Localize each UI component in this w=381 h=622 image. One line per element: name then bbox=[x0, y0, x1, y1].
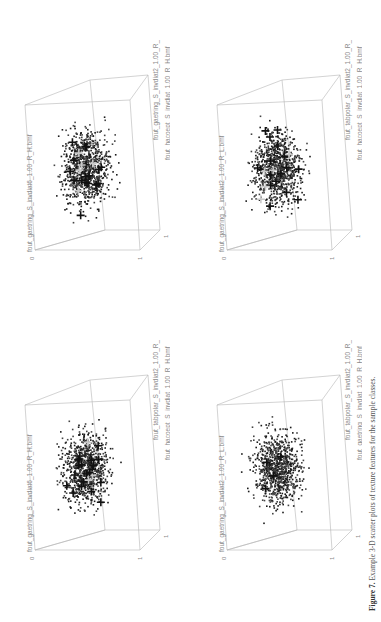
tick-label: 0 bbox=[29, 256, 35, 260]
scatter-panel-top-left: fout_gaetring_S_invdiat6_1.00_R_H.bmf fo… bbox=[20, 40, 170, 290]
scatter-points bbox=[245, 116, 310, 218]
scatter-plot-3d: fout_gaetring_S_invdiat2_1.00_R_L.bmf fo… bbox=[212, 340, 362, 590]
z-axis-label: fout_tabpolar_S_invdiat2_1.00_R_L.bmf bbox=[344, 40, 352, 140]
x-axis-label: fout_hacoept_S_invdiat_1.00_R_H.bmf bbox=[356, 46, 362, 160]
tick-label: 1 bbox=[163, 534, 169, 538]
z-axis-label: fout_gaetring_S_invdiat2_1.00_R_L.bmf bbox=[152, 40, 160, 140]
y-axis-label: fout_gaetring_S_invdiat6_1.00_R_H.bmf bbox=[26, 134, 34, 252]
scatter-panel-top-right: fout_gaetring_S_invdiat2_1.00_R_L.bmf fo… bbox=[212, 40, 362, 290]
tick-label: 0 bbox=[221, 556, 227, 560]
scatter-panel-bottom-right: fout_gaetring_S_invdiat2_1.00_R_L.bmf fo… bbox=[212, 340, 362, 590]
figure-caption-label: Figure 7. bbox=[368, 582, 377, 611]
y-axis-label: fout_gaetring_S_invdiat2_1.00_R_L.bmf bbox=[218, 435, 226, 552]
tick-label: 0 bbox=[221, 256, 227, 260]
tick-label: 1 bbox=[163, 234, 169, 238]
scatter-panel-bottom-left: fout_gaetring_S_invdiat6_1.00_R_H.bmf fo… bbox=[20, 340, 170, 590]
tick-label: 1 bbox=[329, 556, 335, 560]
tick-label: 1 bbox=[355, 534, 361, 538]
tick-label: 1 bbox=[355, 234, 361, 238]
scatter-points bbox=[241, 416, 310, 524]
scatter-plot-3d: fout_gaetring_S_invdiat6_1.00_R_H.bmf fo… bbox=[20, 340, 170, 590]
tick-label: 1 bbox=[137, 556, 143, 560]
x-axis-label: fout_hacoept_S_invdiat_1.00_R_H.bmf bbox=[164, 46, 170, 160]
tick-label: 0 bbox=[29, 556, 35, 560]
figure-caption: Figure 7. Example 3-D scatter plots of t… bbox=[368, 11, 377, 611]
figure-caption-text: Example 3-D scatter plots of texture fea… bbox=[368, 377, 377, 581]
scatter-points bbox=[54, 116, 121, 223]
scatter-plot-3d: fout_gaetring_S_invdiat2_1.00_R_L.bmf fo… bbox=[212, 40, 362, 290]
cube-frame bbox=[217, 75, 352, 250]
x-axis-label: fout_hacoept_S_invdiat_1.00_R_H.bmf bbox=[164, 346, 170, 460]
z-axis-label: fout_tabpolar_S_invdiat2_1.00_R_L.bmf bbox=[152, 340, 160, 440]
scatter-points bbox=[56, 419, 122, 516]
scatter-plot-3d: fout_gaetring_S_invdiat6_1.00_R_H.bmf fo… bbox=[20, 40, 170, 290]
x-axis-label: fout_gaetring_S_invdiat_1.00_R_H.bmf bbox=[356, 346, 362, 460]
tick-label: 1 bbox=[329, 256, 335, 260]
tick-label: 1 bbox=[137, 256, 143, 260]
y-axis-label: fout_gaetring_S_invdiat6_1.00_R_H.bmf bbox=[26, 434, 34, 552]
y-axis-label: fout_gaetring_S_invdiat2_1.00_R_L.bmf bbox=[218, 135, 226, 252]
z-axis-label: fout_tabpolar_S_invdiat2_1.00_R_L.bmf bbox=[344, 340, 352, 440]
